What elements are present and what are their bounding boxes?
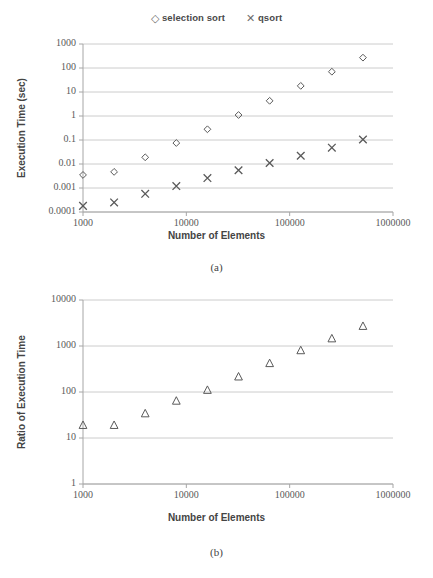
- y-tick-label: 10000: [0, 293, 76, 304]
- data-point-triangle: [141, 409, 149, 416]
- data-point-diamond: [328, 68, 335, 75]
- caption-figure-a: (a): [0, 261, 433, 273]
- data-point-diamond: [142, 154, 149, 161]
- data-point-cross: [141, 190, 149, 198]
- y-tick-label: 100: [0, 385, 76, 396]
- caption-figure-b: (b): [0, 546, 433, 558]
- x-tick-label: 1000000: [348, 217, 433, 228]
- x-tick-label: 1000: [38, 217, 128, 228]
- y-tick-label: 1: [0, 477, 76, 488]
- data-point-diamond: [360, 54, 367, 61]
- x-tick-label: 10000: [141, 489, 231, 500]
- data-point-cross: [204, 174, 212, 182]
- data-point-cross: [173, 182, 181, 190]
- data-point-diamond: [235, 112, 242, 119]
- data-point-cross: [359, 136, 367, 144]
- x-tick-label: 10000: [141, 217, 231, 228]
- data-point-diamond: [173, 140, 180, 147]
- y-tick-label: 10: [0, 431, 76, 442]
- x-tick-label: 1000: [38, 489, 128, 500]
- data-point-cross: [328, 144, 336, 152]
- data-point-triangle: [110, 421, 118, 428]
- data-point-triangle: [266, 359, 274, 366]
- y-tick-label: 100: [0, 61, 76, 72]
- data-point-diamond: [111, 168, 118, 175]
- data-point-cross: [266, 159, 274, 167]
- series-qsort: [79, 136, 367, 210]
- figure-b: Ratio of Execution Time Number of Elemen…: [0, 290, 433, 578]
- data-point-cross: [235, 166, 243, 174]
- data-point-cross: [110, 199, 118, 207]
- y-tick-label: 1000: [0, 339, 76, 350]
- series-ratio: [79, 322, 367, 428]
- figure-a: ◇selection sort ✕qsort Execution Time (s…: [0, 0, 433, 290]
- plot-area-figure-b: [0, 290, 433, 540]
- y-tick-label: 10: [0, 85, 76, 96]
- x-axis-title-figure-a: Number of Elements: [0, 230, 433, 241]
- data-point-diamond: [204, 126, 211, 133]
- y-tick-label: 0.1: [0, 133, 76, 144]
- y-tick-label: 1000: [0, 37, 76, 48]
- data-point-triangle: [359, 322, 367, 329]
- data-point-triangle: [172, 397, 180, 404]
- data-point-diamond: [266, 97, 273, 104]
- data-point-diamond: [297, 82, 304, 89]
- data-point-triangle: [235, 373, 243, 380]
- data-point-triangle: [297, 346, 305, 353]
- y-tick-label: 0.001: [0, 181, 76, 192]
- x-tick-label: 100000: [245, 217, 335, 228]
- y-tick-label: 0.01: [0, 157, 76, 168]
- x-axis-title-figure-b: Number of Elements: [0, 512, 433, 523]
- x-tick-label: 100000: [245, 489, 335, 500]
- y-tick-label: 0.0001: [0, 205, 76, 216]
- data-point-cross: [297, 152, 305, 160]
- x-tick-label: 1000000: [348, 489, 433, 500]
- data-point-triangle: [328, 334, 336, 341]
- y-tick-label: 1: [0, 109, 76, 120]
